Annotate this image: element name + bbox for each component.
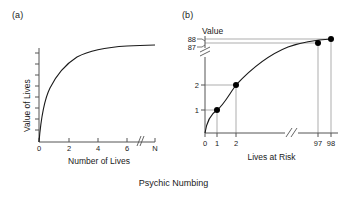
panel-a-xtick-0: 0 bbox=[37, 144, 41, 153]
psychic-numbing-figure: (a) Value of Lives bbox=[0, 0, 347, 200]
panel-a: (a) Value of Lives bbox=[0, 0, 174, 175]
panel-b-xtick-98: 98 bbox=[327, 139, 335, 148]
panel-b-x-axis-title: Lives at Risk bbox=[205, 152, 338, 162]
panel-a-xtick-2: 4 bbox=[96, 144, 100, 153]
panel-b: (b) Value bbox=[168, 0, 347, 175]
panel-a-x-axis-title: Number of Lives bbox=[39, 156, 159, 166]
panel-b-xtick-2: 2 bbox=[234, 139, 238, 148]
panel-b-value-curve bbox=[205, 39, 331, 133]
panel-b-y-axis-title: Value bbox=[202, 26, 223, 36]
panel-b-xtick-0: 0 bbox=[203, 139, 207, 148]
data-point-2-2 bbox=[233, 82, 239, 88]
panel-a-xtick-4: N bbox=[152, 144, 157, 153]
panel-a-x-ticks bbox=[39, 138, 155, 142]
panel-a-y-axis-title: Value of Lives bbox=[22, 79, 32, 132]
data-point-98-88 bbox=[328, 36, 334, 42]
panel-a-value-curve bbox=[39, 45, 155, 142]
panel-b-y-axis-break bbox=[200, 47, 210, 56]
panel-a-y-ticks bbox=[35, 53, 39, 130]
panel-b-x-ticks bbox=[205, 133, 331, 137]
panel-b-ytick-87: 87 bbox=[168, 43, 196, 52]
panel-b-ytick-2: 2 bbox=[168, 81, 199, 90]
panel-a-x-axis-break bbox=[137, 136, 144, 146]
panel-a-label: (a) bbox=[12, 10, 23, 20]
data-point-97-87 bbox=[315, 40, 321, 46]
panel-b-label: (b) bbox=[182, 10, 193, 20]
panel-b-xtick-97: 97 bbox=[314, 139, 322, 148]
panel-a-xtick-1: 2 bbox=[67, 144, 71, 153]
panel-b-gridlines-horizontal bbox=[205, 39, 331, 110]
panel-b-ytick-1: 1 bbox=[168, 106, 199, 115]
data-point-1-1 bbox=[214, 107, 220, 113]
figure-caption: Psychic Numbing bbox=[0, 178, 347, 188]
panel-b-y-break-leaders bbox=[197, 39, 205, 47]
panel-b-xtick-1: 1 bbox=[215, 139, 219, 148]
panel-a-xtick-3: 6 bbox=[125, 144, 129, 153]
panel-b-y-ticks bbox=[201, 85, 205, 110]
panel-b-x-axis-break bbox=[286, 128, 297, 137]
